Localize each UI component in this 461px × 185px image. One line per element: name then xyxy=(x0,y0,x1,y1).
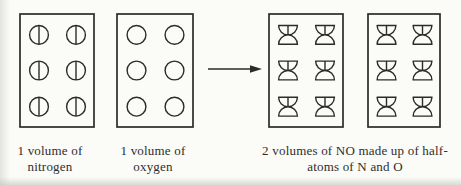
nitrogen-atom-icon xyxy=(67,97,86,116)
no-half-atoms-molecule-icon xyxy=(377,61,396,80)
oxygen-volume-box xyxy=(116,13,194,128)
no-half-atoms-molecule-icon xyxy=(377,97,396,116)
oxygen-caption-line1: 1 volume of xyxy=(106,143,200,159)
nitrogen-volume-caption: 1 volume of nitrogen xyxy=(3,143,97,175)
oxygen-atom-icon xyxy=(127,97,146,116)
no-half-atoms-molecule-icon xyxy=(413,61,432,80)
nitrogen-atom-icon xyxy=(30,61,49,80)
gas-volumes-no-diagram: 1 volume of nitrogen 1 volume of oxygen … xyxy=(0,0,461,185)
no-half-atoms-molecule-icon xyxy=(279,61,298,80)
no-half-atoms-molecule-icon xyxy=(316,26,335,45)
nitrogen-caption-line1: 1 volume of xyxy=(3,143,97,159)
nitrogen-atom-icon xyxy=(67,26,86,45)
no-half-atoms-molecule-icon xyxy=(413,26,432,45)
oxygen-atom-icon xyxy=(165,26,184,45)
oxygen-atom-icon xyxy=(127,61,146,80)
nitrogen-volume-box xyxy=(19,13,95,128)
oxygen-atom-icon xyxy=(165,97,184,116)
no-volume-box-1 xyxy=(268,13,344,128)
oxygen-atom-icon xyxy=(127,26,146,45)
no-half-atoms-molecule-icon xyxy=(316,97,335,116)
product-volumes-caption: 2 volumes of NO made up of half- atoms o… xyxy=(252,143,458,175)
reaction-arrow-icon xyxy=(205,62,265,76)
nitrogen-caption-line2: nitrogen xyxy=(3,159,97,175)
oxygen-caption-line2: oxygen xyxy=(106,159,200,175)
page-edge-shading-bottom xyxy=(0,177,461,185)
no-volume-box-2 xyxy=(367,13,441,128)
product-caption-line2: atoms of N and O xyxy=(252,159,458,175)
nitrogen-atom-icon xyxy=(30,26,49,45)
no-half-atoms-molecule-icon xyxy=(377,26,396,45)
no-half-atoms-molecule-icon xyxy=(279,97,298,116)
nitrogen-atom-icon xyxy=(30,97,49,116)
oxygen-volume-caption: 1 volume of oxygen xyxy=(106,143,200,175)
oxygen-atom-icon xyxy=(165,61,184,80)
no-half-atoms-molecule-icon xyxy=(316,61,335,80)
nitrogen-atom-icon xyxy=(67,61,86,80)
no-half-atoms-molecule-icon xyxy=(279,26,298,45)
product-caption-line1: 2 volumes of NO made up of half- xyxy=(252,143,458,159)
no-half-atoms-molecule-icon xyxy=(413,97,432,116)
